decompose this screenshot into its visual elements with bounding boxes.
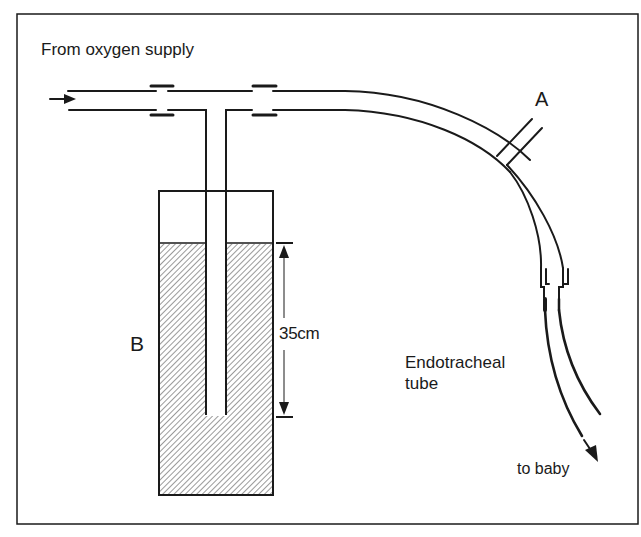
water-bottle-b bbox=[159, 191, 273, 495]
inlet-arrow-icon bbox=[50, 94, 76, 104]
label-to-baby: to baby bbox=[517, 460, 569, 478]
label-depth: 35cm bbox=[279, 324, 319, 344]
label-ett-line2: tube bbox=[405, 373, 505, 394]
side-port-a bbox=[497, 119, 542, 165]
endotracheal-tube bbox=[545, 310, 600, 436]
outlet-arrow-icon bbox=[584, 440, 598, 462]
label-endotracheal-tube: Endotracheal tube bbox=[405, 352, 505, 394]
oxygen-circuit-diagram bbox=[0, 0, 641, 537]
label-oxygen-supply: From oxygen supply bbox=[41, 40, 194, 60]
ett-connector bbox=[541, 268, 568, 310]
label-side-port-a: A bbox=[535, 88, 548, 111]
label-water-bottle-b: B bbox=[130, 332, 144, 356]
label-ett-line1: Endotracheal bbox=[405, 352, 505, 373]
curved-tube bbox=[507, 165, 563, 268]
